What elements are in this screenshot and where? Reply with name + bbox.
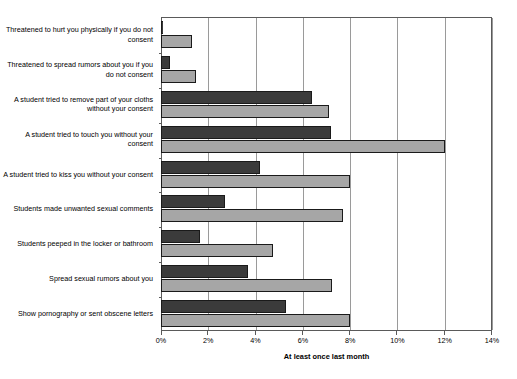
x-tick-label: 0%	[141, 336, 181, 346]
x-axis-tick-labels: 0%2%4%6%8%10%12%14%	[0, 336, 517, 348]
bar	[161, 21, 163, 34]
category-label: Threatened to spread rumors about you if…	[0, 60, 153, 78]
x-tick-10%	[396, 331, 397, 335]
x-tick-8%	[349, 331, 350, 335]
category-label: Show pornography or sent obscene letters	[0, 309, 153, 318]
x-tick-label: 10%	[377, 336, 417, 346]
x-tick-14%	[491, 331, 492, 335]
bar	[161, 175, 350, 188]
bar	[161, 195, 225, 208]
bar	[161, 209, 343, 222]
x-tick-12%	[444, 331, 445, 335]
chart-container: Threatened to hurt you physically if you…	[0, 0, 517, 379]
x-tick-2%	[207, 331, 208, 335]
bar	[161, 314, 350, 327]
x-axis-title: At least once last month	[161, 352, 492, 361]
category-label: A student tried to touch you without you…	[0, 130, 153, 148]
bar	[161, 126, 331, 139]
bar	[161, 279, 332, 292]
gridline-14%	[492, 18, 493, 330]
x-tick-4%	[255, 331, 256, 335]
category-label: Students made unwanted sexual comments	[0, 204, 153, 213]
bar	[161, 230, 200, 243]
bar	[161, 35, 192, 48]
bar	[161, 161, 260, 174]
x-tick-label: 2%	[188, 336, 228, 346]
category-labels-group: Threatened to hurt you physically if you…	[0, 17, 157, 331]
x-tick-6%	[302, 331, 303, 335]
bar	[161, 105, 329, 118]
category-label: Spread sexual rumors about you	[0, 274, 153, 283]
bar	[161, 140, 445, 153]
x-tick-label: 8%	[330, 336, 370, 346]
x-tick-0%	[161, 331, 162, 335]
x-tick-label: 12%	[425, 336, 465, 346]
bar	[161, 244, 273, 257]
category-label: Students peeped in the locker or bathroo…	[0, 239, 153, 248]
bar	[161, 56, 170, 69]
bar	[161, 300, 286, 313]
bar	[161, 265, 248, 278]
category-label: A student tried to kiss you without your…	[0, 170, 153, 179]
x-tick-label: 6%	[283, 336, 323, 346]
x-tick-label: 4%	[236, 336, 276, 346]
category-label: Threatened to hurt you physically if you…	[0, 25, 153, 43]
bar	[161, 70, 196, 83]
x-tick-label: 14%	[472, 336, 512, 346]
category-label: A student tried to remove part of your c…	[0, 95, 153, 113]
bars-group	[161, 17, 492, 331]
bar	[161, 91, 312, 104]
